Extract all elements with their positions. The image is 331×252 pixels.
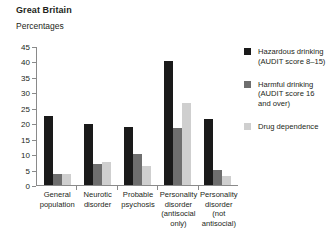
category-label-line: Probable [119, 190, 157, 200]
bar-group [117, 47, 157, 185]
bar [44, 116, 53, 186]
legend-item[interactable]: Drug dependence [244, 122, 331, 132]
legend-item[interactable]: Harmful drinking(AUDIT score 16and over) [244, 80, 331, 109]
category-label: Personalitydisorder(antisocialonly) [158, 190, 198, 228]
x-axis-line [36, 185, 238, 186]
y-tick-label: 0 [12, 182, 30, 191]
y-tick-mark [32, 140, 36, 141]
chart-subtitle: Percentages [16, 21, 64, 31]
y-tick-mark [32, 155, 36, 156]
category-label-line: (antisocial [159, 209, 197, 219]
y-tick-label: 30 [12, 89, 30, 98]
legend-label-line: (AUDIT score 8–15) [258, 57, 325, 67]
category-label-line: disorder [159, 200, 197, 210]
category-label: Probablepsychosis [118, 190, 158, 228]
y-tick-label: 40 [12, 58, 30, 67]
category-label: Neuroticdisorder [77, 190, 117, 228]
chart-container: Great Britain Percentages 05101520253035… [0, 0, 331, 252]
bar [53, 174, 62, 185]
y-tick-label: 35 [12, 73, 30, 82]
bar [102, 162, 111, 185]
category-label: Generalpopulation [37, 190, 77, 228]
bar [93, 164, 102, 185]
page-title: Great Britain [16, 5, 72, 15]
category-label-line: antisocial) [200, 219, 238, 229]
category-label-line: General [38, 190, 76, 200]
y-tick-label: 45 [12, 43, 30, 52]
bar-group [158, 47, 198, 185]
y-tick-mark [32, 93, 36, 94]
y-tick-mark [32, 186, 36, 187]
legend-label: Harmful drinking(AUDIT score 16and over) [258, 80, 314, 109]
category-label-line: population [38, 200, 76, 210]
category-label: Personalitydisorder(notantisocial) [199, 190, 239, 228]
bar-group [77, 47, 117, 185]
y-tick-label: 20 [12, 120, 30, 129]
legend-item[interactable]: Hazardous drinking(AUDIT score 8–15) [244, 47, 331, 67]
y-tick-mark [32, 62, 36, 63]
y-tick-label: 25 [12, 104, 30, 113]
legend-label-line: Hazardous drinking [258, 47, 325, 57]
y-tick-label: 15 [12, 135, 30, 144]
legend-swatch-icon [244, 123, 251, 130]
legend-swatch-icon [244, 81, 251, 88]
y-tick-mark [32, 109, 36, 110]
legend-label-line: and over) [258, 99, 314, 109]
category-label-line: Personality [200, 190, 238, 200]
bar [62, 174, 71, 185]
y-tick-mark [32, 78, 36, 79]
bar [204, 119, 213, 185]
bar-group [198, 47, 238, 185]
bar [213, 170, 222, 185]
y-tick-mark [32, 171, 36, 172]
category-label-line: disorder [78, 200, 116, 210]
bar [124, 127, 133, 185]
legend-swatch-icon [244, 48, 251, 55]
category-label-line: psychosis [119, 200, 157, 210]
x-axis-category-labels: GeneralpopulationNeuroticdisorderProbabl… [37, 190, 239, 228]
legend-label-line: (AUDIT score 16 [258, 89, 314, 99]
bar [222, 176, 231, 185]
bar [84, 124, 93, 185]
legend-label: Drug dependence [258, 122, 318, 132]
legend-label: Hazardous drinking(AUDIT score 8–15) [258, 47, 325, 67]
category-label-line: Personality [159, 190, 197, 200]
legend-label-line: Harmful drinking [258, 80, 314, 90]
y-tick-mark [32, 47, 36, 48]
y-tick-label: 10 [12, 151, 30, 160]
y-tick-mark [32, 124, 36, 125]
y-tick-label: 5 [12, 166, 30, 175]
bar [182, 103, 191, 185]
bar [133, 154, 142, 185]
bar-group [37, 47, 77, 185]
category-label-line: disorder [200, 200, 238, 210]
bar-groups [37, 47, 238, 185]
legend-label-line: Drug dependence [258, 122, 318, 132]
category-label-line: Neurotic [78, 190, 116, 200]
bar [173, 128, 182, 185]
category-label-line: (not [200, 209, 238, 219]
category-label-line: only) [159, 219, 197, 229]
plot-area: 051015202530354045 [36, 47, 238, 186]
bar [164, 61, 173, 185]
bar [142, 166, 151, 185]
chart-legend: Hazardous drinking(AUDIT score 8–15)Harm… [244, 47, 331, 145]
